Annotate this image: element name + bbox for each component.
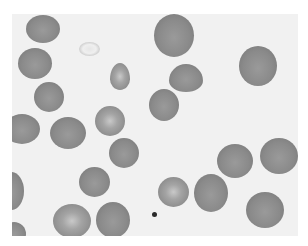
red-blood-cell bbox=[239, 46, 277, 86]
red-blood-cell bbox=[12, 172, 24, 210]
red-blood-cell bbox=[260, 138, 298, 174]
red-blood-cell bbox=[79, 167, 110, 197]
red-blood-cell bbox=[34, 82, 64, 112]
red-blood-cell bbox=[26, 15, 60, 43]
red-blood-cell bbox=[246, 192, 284, 228]
red-blood-cell bbox=[95, 106, 125, 136]
platelet bbox=[152, 212, 157, 217]
red-blood-cell bbox=[50, 117, 86, 149]
red-blood-cell bbox=[109, 138, 139, 168]
red-blood-cell bbox=[158, 177, 189, 207]
red-blood-cell bbox=[12, 222, 26, 236]
red-blood-cell bbox=[53, 204, 91, 236]
red-blood-cell bbox=[154, 14, 194, 57]
red-blood-cell bbox=[194, 174, 228, 212]
red-blood-cell bbox=[12, 114, 40, 144]
red-blood-cell bbox=[169, 64, 203, 92]
red-blood-cell bbox=[217, 144, 253, 178]
micrograph-frame bbox=[12, 14, 298, 236]
red-blood-cell bbox=[149, 89, 179, 121]
red-blood-cell bbox=[110, 63, 130, 90]
red-blood-cell bbox=[18, 48, 52, 79]
red-blood-cell bbox=[96, 202, 130, 236]
red-blood-cell bbox=[79, 42, 100, 56]
